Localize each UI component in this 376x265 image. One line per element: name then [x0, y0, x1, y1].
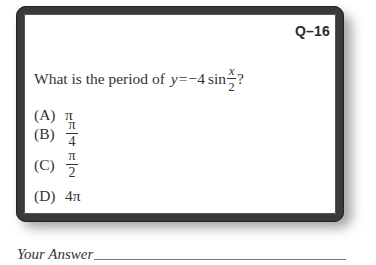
option-d[interactable]: (D) 4π — [34, 187, 81, 205]
equation-equals: = — [179, 70, 188, 88]
option-c[interactable]: (C) π 2 — [34, 149, 79, 180]
your-answer-label: Your Answer — [17, 246, 93, 263]
option-b[interactable]: (B) π 4 — [34, 118, 79, 149]
option-value: 4π — [65, 187, 81, 205]
option-letter: (D) — [34, 187, 65, 205]
option-fraction: π 4 — [66, 118, 78, 149]
equation: y = −4 sin x 2 ? — [171, 64, 244, 93]
fraction-denominator: 2 — [228, 80, 235, 93]
equation-coefficient: −4 — [189, 70, 206, 88]
equation-lhs: y — [171, 70, 178, 88]
question-text: What is the period of y = −4 sin x 2 ? — [34, 64, 244, 93]
equation-function: sin — [208, 70, 226, 88]
fraction-numerator: x — [228, 64, 236, 77]
equation-fraction: x 2 — [227, 64, 236, 93]
fraction-denominator: 2 — [69, 166, 76, 180]
equation-suffix: ? — [237, 70, 244, 88]
question-prefix: What is the period of — [34, 70, 165, 88]
question-id: Q–16 — [295, 23, 330, 39]
answer-input-line[interactable] — [94, 259, 346, 260]
option-letter: (B) — [34, 125, 65, 143]
fraction-numerator: π — [67, 118, 76, 132]
fraction-numerator: π — [67, 149, 76, 163]
option-fraction: π 2 — [66, 149, 78, 180]
option-letter: (C) — [34, 156, 65, 174]
question-card: Q–16 What is the period of y = −4 sin x … — [16, 6, 344, 222]
fraction-denominator: 4 — [69, 135, 76, 149]
